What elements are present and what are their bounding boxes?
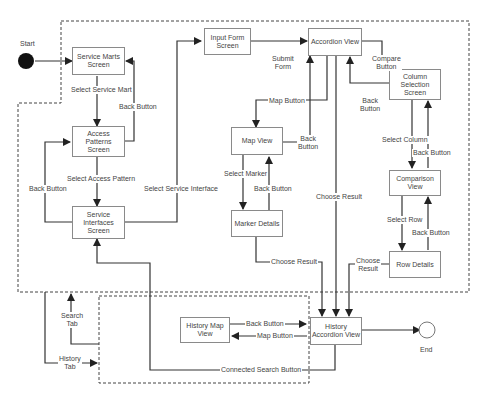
transition-select-service-interface: Select Service Interface (143, 185, 219, 193)
state-map-view: Map View (231, 127, 283, 155)
start-label: Start (20, 40, 35, 47)
transition-back-button-map: Back Button (297, 135, 319, 151)
transition-history-map-button: Map Button (256, 332, 294, 340)
transition-back-button-column: Back Button (359, 97, 381, 113)
transition-select-row: Select Row (386, 216, 423, 224)
state-service-marts: Service Marts Screen (72, 47, 125, 75)
transition-back-button-comparison: Back Button (412, 149, 452, 157)
transition-compare-button: Compare Button (371, 55, 402, 71)
state-history-accordion-view: History Accordion View (310, 317, 362, 345)
transition-back-button-row: Back Button (411, 229, 451, 237)
start-node (18, 53, 34, 69)
transition-back-button-1: Back Button (118, 103, 158, 111)
state-access-patterns: Access Patterns Screen (72, 126, 125, 157)
transition-submit-form: Submit Form (271, 55, 295, 71)
state-service-interfaces: Service Interfaces Screen (72, 206, 125, 239)
state-column-selection: Column Selection Screen (389, 69, 441, 100)
transition-select-marker: Select Marker (223, 170, 268, 178)
transition-choose-result-accordion: Choose Result (315, 193, 363, 201)
state-accordion-view: Accordion View (308, 28, 362, 56)
state-input-form: Input Form Screen (204, 28, 251, 55)
transition-history-back-button: Back Button (245, 320, 285, 328)
end-node (419, 322, 435, 338)
transition-select-column: Select Column (381, 136, 429, 144)
state-history-map-view: History Map View (180, 317, 230, 343)
transition-select-service-mart: Select Service Mart (70, 86, 133, 94)
transition-back-button-marker: Back Button (253, 185, 293, 193)
state-comparison-view: Comparison View (389, 170, 441, 196)
transition-choose-result-marker: Choose Result (270, 258, 318, 266)
transition-search-tab: Search Tab (60, 312, 84, 328)
transition-connected-search-button: Connected Search Button (220, 366, 302, 374)
transition-map-button: Map Button (268, 97, 306, 105)
end-label: End (420, 346, 432, 353)
transition-history-tab: History Tab (58, 355, 82, 371)
transition-select-access-pattern: Select Access Pattern (66, 175, 136, 183)
transition-back-button-2: Back Button (28, 185, 68, 193)
transition-choose-result-row: Choose Result (355, 257, 381, 273)
state-row-details: Row Details (389, 251, 441, 278)
state-marker-details: Marker Details (231, 210, 283, 237)
